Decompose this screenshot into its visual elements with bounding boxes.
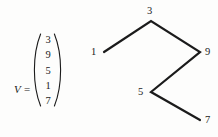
vector-expression: V = 3 9 5 1 7 — [10, 28, 70, 112]
right-parenthesis-glyph — [53, 33, 62, 107]
node-label-value: 9 — [205, 46, 210, 57]
vector-name-label: V — [14, 83, 21, 95]
node-label-value: 5 — [138, 86, 143, 97]
vector-matrix: 3 9 5 1 7 — [33, 33, 61, 107]
node-label-value: 1 — [91, 46, 96, 57]
vector-entry: 1 — [45, 80, 50, 91]
polyline-path-svg — [85, 0, 218, 137]
equals-sign: = — [24, 83, 30, 95]
vector-entry: 5 — [45, 65, 50, 76]
vector-entry: 3 — [45, 34, 50, 45]
polyline-plot: 1 3 9 5 7 — [85, 0, 218, 137]
vector-entry: 9 — [45, 49, 50, 60]
math-figure: V = 3 9 5 1 7 — [0, 0, 218, 137]
node-label-value: 3 — [147, 5, 152, 16]
vector-entry: 7 — [45, 95, 50, 106]
node-label-value: 7 — [205, 114, 210, 125]
left-parenthesis-glyph — [33, 33, 42, 107]
